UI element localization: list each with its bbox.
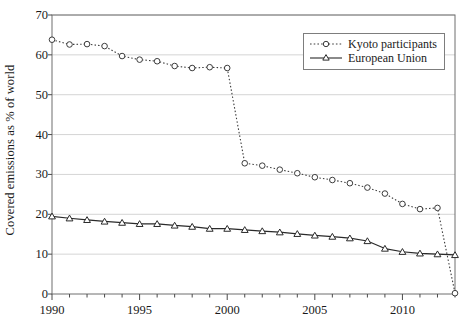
data-point-marker — [189, 65, 195, 71]
data-point-marker — [67, 42, 73, 48]
data-point-marker — [365, 185, 371, 191]
emissions-line-chart: Covered emissions as % of world 01020304… — [0, 0, 468, 324]
data-point-marker — [224, 65, 230, 71]
data-point-marker — [277, 167, 283, 173]
data-point-marker — [400, 201, 406, 207]
data-point-marker — [242, 160, 248, 166]
data-point-marker — [259, 163, 265, 169]
data-point-marker — [417, 206, 423, 212]
data-point-marker — [207, 64, 213, 70]
data-point-marker — [119, 53, 125, 59]
data-point-marker — [312, 174, 318, 180]
data-point-marker — [295, 170, 301, 176]
legend-sample-dotted-circle-icon — [309, 37, 343, 51]
data-point-marker — [382, 245, 389, 251]
data-point-marker — [452, 290, 458, 296]
data-point-marker — [435, 205, 441, 211]
legend-item-kyoto-participants: Kyoto participants — [309, 37, 437, 51]
data-point-marker — [49, 37, 55, 43]
legend-label-kyoto-participants: Kyoto participants — [343, 37, 437, 51]
data-point-marker — [102, 43, 108, 49]
data-point-marker — [137, 57, 143, 63]
data-point-marker — [154, 58, 160, 64]
data-point-marker — [330, 177, 336, 183]
legend-sample-solid-triangle-icon — [309, 51, 343, 65]
data-point-marker — [347, 180, 353, 186]
data-point-marker — [382, 191, 388, 197]
legend-label-european-union: European Union — [343, 51, 427, 65]
series-line-2 — [52, 216, 455, 255]
data-point-marker — [84, 41, 90, 47]
series-line-1 — [52, 40, 455, 293]
legend-item-european-union: European Union — [309, 51, 437, 65]
chart-legend: Kyoto participants European Union — [303, 33, 445, 70]
data-point-marker — [172, 63, 178, 69]
